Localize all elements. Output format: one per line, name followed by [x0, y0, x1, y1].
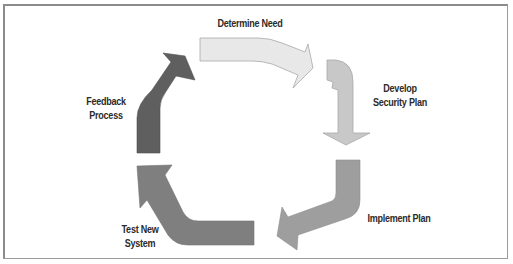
label-line: System — [116, 236, 164, 250]
label-test-new-system: Test New System — [116, 222, 164, 250]
label-implement-plan: Implement Plan — [360, 211, 437, 225]
label-determine-need: Determine Need — [211, 16, 288, 30]
label-feedback-process: Feedback Process — [82, 94, 130, 122]
arrow-implement-plan — [277, 160, 360, 250]
label-line: Determine Need — [211, 16, 288, 30]
label-line: Develop — [366, 81, 435, 95]
arrow-determine-need — [200, 38, 313, 88]
arrow-develop-security-plan — [323, 60, 370, 145]
label-line: Feedback — [82, 94, 130, 108]
label-line: Implement Plan — [360, 211, 437, 225]
label-line: Security Plan — [366, 95, 435, 109]
label-line: Process — [82, 108, 130, 122]
label-line: Test New — [116, 222, 164, 236]
label-develop-security-plan: Develop Security Plan — [366, 81, 435, 109]
arrow-feedback-process — [137, 53, 195, 153]
